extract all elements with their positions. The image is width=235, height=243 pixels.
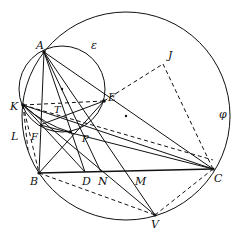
center-epsilon bbox=[61, 88, 63, 90]
segment-AD bbox=[44, 52, 85, 172]
label-B: B bbox=[29, 175, 38, 188]
label-F: F bbox=[30, 131, 39, 142]
segment-FC bbox=[40, 125, 213, 169]
label-J: J bbox=[166, 49, 173, 62]
dashed-CV bbox=[155, 169, 213, 215]
dashed-KC bbox=[23, 105, 213, 160]
label-N: N bbox=[97, 175, 108, 188]
point-C bbox=[211, 167, 214, 170]
point-K bbox=[21, 103, 25, 107]
segment-AV bbox=[44, 52, 155, 215]
label-L: L bbox=[10, 130, 18, 143]
segment-AN bbox=[44, 52, 101, 172]
label-V: V bbox=[151, 218, 160, 231]
point-V bbox=[153, 213, 156, 216]
point-E bbox=[102, 99, 106, 103]
center-phi bbox=[125, 115, 127, 117]
segment-AC bbox=[44, 52, 213, 169]
geometry-figure: A ε J E K T F L P φ B D N M C V bbox=[0, 0, 235, 243]
label-D: D bbox=[81, 175, 91, 188]
label-P: P bbox=[81, 133, 89, 144]
segment-KV bbox=[23, 105, 155, 215]
segment-AB bbox=[39, 52, 44, 173]
label-C: C bbox=[214, 172, 223, 185]
label-phi: φ bbox=[219, 108, 227, 121]
label-K: K bbox=[9, 100, 19, 113]
label-A: A bbox=[35, 39, 44, 52]
point-P bbox=[68, 130, 71, 133]
label-T: T bbox=[54, 104, 62, 115]
dashed-KE bbox=[23, 101, 104, 105]
label-E: E bbox=[107, 91, 116, 104]
label-epsilon: ε bbox=[91, 39, 97, 52]
label-M: M bbox=[134, 175, 147, 188]
segment-BE bbox=[39, 101, 104, 173]
